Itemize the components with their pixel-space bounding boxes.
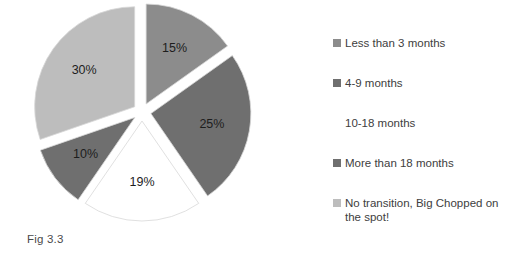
legend-item-more-than-18-months[interactable]: More than 18 months — [333, 156, 525, 196]
chart-legend: Less than 3 months 4-9 months 10-18 mont… — [333, 36, 525, 236]
legend-item-label: More than 18 months — [345, 156, 454, 170]
legend-item-label: No transition, Big Chopped on the spot! — [345, 196, 498, 224]
pie-slice-value-label: 30% — [72, 63, 97, 77]
pie-slice-value-label: 25% — [199, 117, 224, 131]
legend-item-label: Less than 3 months — [345, 36, 445, 50]
legend-item-10-18-months[interactable]: 10-18 months — [333, 116, 525, 156]
pie-chart-svg: 15%25%19%10%30% — [0, 0, 285, 232]
legend-swatch-icon — [333, 199, 341, 207]
legend-item-4-9-months[interactable]: 4-9 months — [333, 76, 525, 116]
legend-item-no-transition[interactable]: No transition, Big Chopped on the spot! — [333, 196, 525, 236]
pie-chart-plot-area: 15%25%19%10%30% — [0, 0, 285, 232]
pie-chart-figure: 15%25%19%10%30% Fig 3.3 Less than 3 mont… — [0, 0, 530, 258]
pie-slice-value-label: 10% — [73, 147, 98, 161]
legend-item-label: 4-9 months — [345, 76, 403, 90]
legend-swatch-icon — [333, 39, 341, 47]
figure-caption: Fig 3.3 — [27, 233, 64, 245]
legend-item-label: 10-18 months — [345, 116, 415, 130]
pie-slice-value-label: 15% — [162, 41, 187, 55]
legend-swatch-icon — [333, 79, 341, 87]
legend-swatch-icon — [333, 159, 341, 167]
pie-slice-value-label: 19% — [129, 175, 154, 189]
legend-swatch-icon — [333, 119, 341, 127]
legend-item-less-than-3-months[interactable]: Less than 3 months — [333, 36, 525, 76]
